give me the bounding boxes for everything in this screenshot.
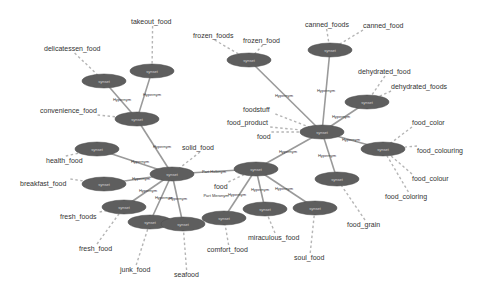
lemma-label[interactable]: takeout_food — [131, 18, 172, 26]
synset-id: synset — [91, 147, 103, 152]
synset-node[interactable]: synset — [293, 201, 337, 215]
lemma-label[interactable]: food_grain — [347, 221, 380, 229]
lemma-label[interactable]: health_food — [46, 157, 83, 165]
synset-node[interactable]: synset — [345, 95, 389, 109]
relation-label: Hypernym — [132, 176, 151, 181]
lemma-label[interactable]: soul_food — [294, 254, 324, 262]
synset-id: synset — [316, 130, 328, 135]
relation-label: Hypernym — [143, 92, 162, 97]
lemma-label[interactable]: breakfast_food — [20, 180, 66, 188]
synset-node[interactable]: synset — [234, 162, 278, 176]
synset-node[interactable]: synset — [361, 142, 405, 156]
relation-label: Hypernym — [113, 97, 132, 102]
lemma-label[interactable]: canned_foods — [305, 21, 349, 29]
synset-id: synset — [243, 58, 255, 63]
synset-node[interactable]: synset — [300, 125, 344, 139]
relation-label: Hypernym — [153, 144, 172, 149]
lemma-label[interactable]: comfort_food — [207, 246, 248, 254]
synset-id: synset — [98, 182, 110, 187]
relation-label: Hypernym — [332, 114, 351, 119]
lemma-label[interactable]: food_colour — [412, 175, 449, 183]
relation-label: Hypernym — [275, 93, 294, 98]
relation-label: Hypernym — [318, 153, 337, 158]
lemma-label[interactable]: food_coloring — [385, 193, 427, 201]
lemma-label[interactable]: food_color — [412, 119, 445, 127]
graph-svg: HypernymHypernymHypernymHypernymHypernym… — [0, 0, 477, 293]
synset-node[interactable]: synset — [308, 43, 352, 57]
lemma-label[interactable]: delicatessen_food — [44, 45, 101, 53]
synset-id: synset — [331, 177, 343, 182]
lemma-label[interactable]: solid_food — [182, 144, 214, 152]
lemma-label[interactable]: fresh_foods — [60, 213, 97, 221]
synset-node[interactable]: synset — [202, 211, 246, 225]
relation-label: Part Meronym — [203, 193, 229, 198]
lemma-label[interactable]: food — [214, 183, 228, 190]
lemma-label[interactable]: seafood — [174, 271, 199, 278]
synset-node[interactable]: synset — [102, 200, 146, 214]
synset-id: synset — [146, 69, 158, 74]
lemma-label[interactable]: frozen_food — [243, 37, 280, 45]
relation-label: Hypernym — [169, 196, 188, 201]
wordnet-graph-canvas: HypernymHypernymHypernymHypernymHypernym… — [0, 0, 477, 293]
synset-node[interactable]: synset — [82, 74, 126, 88]
lemma-label[interactable]: dehydrated_food — [358, 68, 411, 76]
synset-node[interactable]: synset — [150, 167, 194, 181]
relation-label: Hypernym — [275, 186, 294, 191]
relation-label: Hypernym — [342, 137, 361, 142]
synset-id: synset — [166, 172, 178, 177]
lemma-label[interactable]: food_colouring — [417, 147, 463, 155]
relation-label: Hypernym — [228, 192, 247, 197]
synset-id: synset — [144, 220, 156, 225]
lemma-label[interactable]: canned_food — [363, 22, 404, 30]
synset-node[interactable]: synset — [75, 142, 119, 156]
synset-node[interactable]: synset — [82, 177, 126, 191]
synset-id: synset — [98, 79, 110, 84]
relation-label: Hypernym — [139, 188, 158, 193]
relation-label: Part Holonym — [202, 169, 227, 174]
synset-node[interactable]: synset — [130, 64, 174, 78]
synset-id: synset — [324, 48, 336, 53]
lemma-label[interactable]: foodstuff — [243, 106, 270, 113]
lemma-label[interactable]: frozen_foods — [193, 32, 234, 40]
relation-label: Hypernym — [131, 159, 150, 164]
synset-id: synset — [361, 100, 373, 105]
synset-id: synset — [259, 207, 271, 212]
relation-label: Hypernym — [279, 149, 298, 154]
synset-node[interactable]: synset — [315, 172, 359, 186]
synset-id: synset — [118, 205, 130, 210]
synset-node[interactable]: synset — [115, 112, 159, 126]
synset-node[interactable]: synset — [243, 202, 287, 216]
relation-label: Hypernym — [317, 88, 336, 93]
synset-node[interactable]: synset — [227, 53, 271, 67]
lemma-label[interactable]: food — [257, 133, 271, 140]
synset-id: synset — [250, 167, 262, 172]
synset-id: synset — [377, 147, 389, 152]
lemma-label[interactable]: fresh_food — [79, 245, 112, 253]
synset-node[interactable]: synset — [161, 217, 205, 231]
lemma-label[interactable]: convenience_food — [40, 107, 97, 115]
synset-id: synset — [177, 222, 189, 227]
lemma-label[interactable]: junk_food — [119, 266, 150, 274]
relation-label: Hypernym — [251, 187, 270, 192]
lemma-label[interactable]: food_product — [227, 119, 268, 127]
synset-id: synset — [218, 216, 230, 221]
synset-id: synset — [309, 206, 321, 211]
synset-id: synset — [131, 117, 143, 122]
lemma-label[interactable]: miraculous_food — [248, 234, 299, 242]
lemma-label[interactable]: dehydrated_foods — [391, 83, 448, 91]
